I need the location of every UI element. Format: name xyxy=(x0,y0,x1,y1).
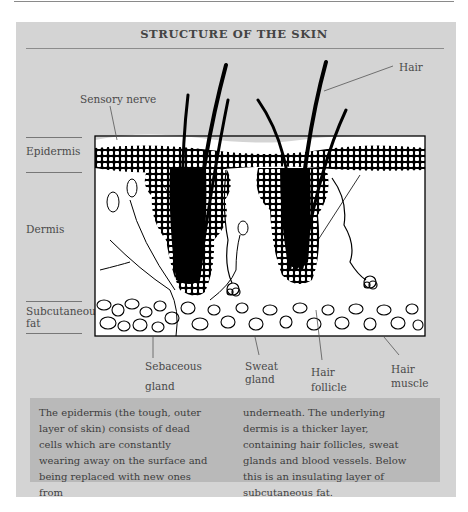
caption-column-2: underneath. The underlying dermis is a t… xyxy=(243,405,419,501)
caption-column-1: The epidermis (the tough, outer layer of… xyxy=(39,405,215,501)
caption-box: The epidermis (the tough, outer layer of… xyxy=(30,398,440,482)
skin-block xyxy=(95,134,425,336)
